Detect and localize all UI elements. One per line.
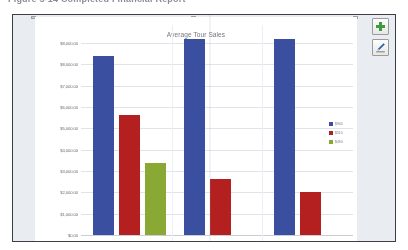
category-separator [172,25,173,241]
y-tick-label: $4,000.00 [60,147,78,152]
add-button[interactable] [372,18,389,35]
y-tick-label: $1,000.00 [60,211,78,216]
edit-button[interactable] [372,39,389,56]
scan-seam [209,15,211,241]
pencil-icon [375,42,386,53]
legend-item[interactable]: $940 [329,121,355,127]
bar[interactable] [210,179,231,235]
legend-item[interactable]: $510 [329,130,355,136]
legend-item[interactable]: $490 [329,139,355,145]
bar[interactable] [119,115,140,235]
y-tick-label: $2,000.00 [60,190,78,195]
legend-label: $940 [335,122,343,126]
category-separator [262,25,263,241]
legend-swatch [329,131,333,135]
bar[interactable] [93,56,114,235]
y-tick-label: $0.00 [68,233,78,238]
bar[interactable] [300,192,321,235]
bar[interactable] [145,163,166,235]
chart-canvas: Average Tour Sales $8,000.00$8,000.00$7,… [35,17,357,241]
legend-label: $510 [335,131,343,135]
legend-label: $490 [335,140,343,144]
screenshot-root: Figure 5-14 Completed Financial Report A… [0,0,408,250]
bar[interactable] [184,39,205,235]
y-tick-label: $6,000.00 [60,105,78,110]
legend-swatch [329,140,333,144]
bar[interactable] [274,39,295,235]
chart-legend: $940$510$490 [329,121,355,148]
chart-toolbar [372,18,392,60]
plus-icon [375,21,386,32]
plot-area [81,17,353,241]
y-tick-label: $8,000.00 [60,62,78,67]
y-axis-labels: $8,000.00$8,000.00$7,000.00$6,000.00$5,0… [35,17,81,241]
bar-chart: Average Tour Sales $8,000.00$8,000.00$7,… [35,17,357,241]
y-tick-label: $3,000.00 [60,169,78,174]
legend-swatch [329,122,333,126]
document-caption: Figure 5-14 Completed Financial Report [8,0,268,6]
y-tick-label: $7,000.00 [60,83,78,88]
chart-panel: Average Tour Sales $8,000.00$8,000.00$7,… [12,14,396,242]
y-tick-label: $5,000.00 [60,126,78,131]
y-tick-label: $8,000.00 [60,41,78,46]
